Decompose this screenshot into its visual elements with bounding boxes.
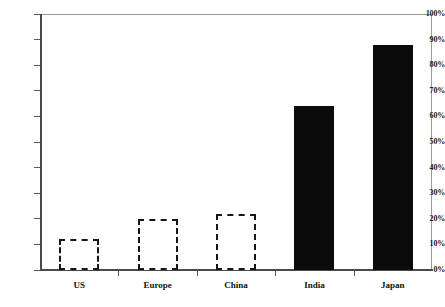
y-axis-label: 30% xyxy=(411,189,445,197)
y-axis-tick xyxy=(34,218,40,219)
y-axis-tick xyxy=(34,14,40,15)
x-axis-tick xyxy=(275,271,276,276)
y-axis-tick xyxy=(34,90,40,91)
x-axis-label-japan: Japan xyxy=(381,281,405,290)
x-axis-label-china: China xyxy=(224,281,248,290)
y-axis-tick xyxy=(34,193,40,194)
y-axis-tick xyxy=(34,167,40,168)
y-axis-tick xyxy=(34,142,40,143)
bar-china xyxy=(216,214,256,270)
y-axis-label: 100% xyxy=(411,10,445,18)
bar-india xyxy=(294,106,334,270)
x-axis-tick xyxy=(354,271,355,276)
x-axis-tick xyxy=(197,271,198,276)
x-axis-label-us: US xyxy=(73,281,85,290)
y-axis-label: 80% xyxy=(411,61,445,69)
x-axis-tick xyxy=(118,271,119,276)
bar-europe xyxy=(138,219,178,270)
y-axis-tick xyxy=(34,116,40,117)
y-axis-tick xyxy=(34,65,40,66)
y-axis-label: 10% xyxy=(411,240,445,248)
x-axis-label-europe: Europe xyxy=(143,281,171,290)
x-axis-label-india: India xyxy=(304,281,325,290)
y-axis-label: 0% xyxy=(411,266,445,274)
y-axis-tick xyxy=(34,39,40,40)
y-axis-label: 50% xyxy=(411,138,445,146)
bar-us xyxy=(59,239,99,270)
y-axis-label: 20% xyxy=(411,215,445,223)
bar-chart: 0%10%20%30%40%50%60%70%80%90%100% USEuro… xyxy=(0,0,445,307)
y-axis-label: 40% xyxy=(411,164,445,172)
y-axis-line xyxy=(40,14,42,271)
y-axis-tick xyxy=(34,244,40,245)
bar-japan xyxy=(373,45,413,270)
y-axis-label: 90% xyxy=(411,36,445,44)
y-axis-tick xyxy=(34,270,40,271)
y-axis-label: 60% xyxy=(411,112,445,120)
y-axis-label: 70% xyxy=(411,87,445,95)
